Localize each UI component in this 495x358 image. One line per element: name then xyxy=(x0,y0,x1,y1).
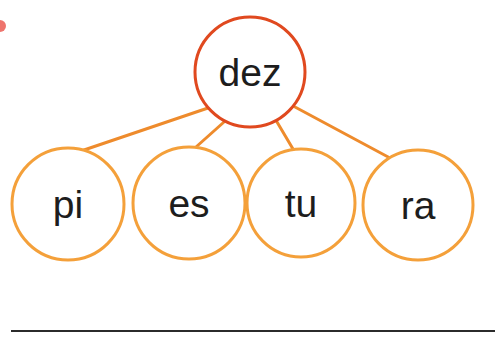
leaf-label-pi: pi xyxy=(53,183,83,226)
leaf-label-tu: tu xyxy=(285,182,318,225)
root-label-dez: dez xyxy=(219,51,282,94)
leaf-node-pi[interactable]: pi xyxy=(12,148,124,260)
edge-dez-pi xyxy=(84,108,208,150)
leaf-node-ra[interactable]: ra xyxy=(363,150,473,260)
edge-dez-tu xyxy=(277,122,293,149)
leaf-node-tu[interactable]: tu xyxy=(247,149,355,257)
root-node-dez[interactable]: dez xyxy=(195,17,305,127)
leaf-node-es[interactable]: es xyxy=(133,147,245,259)
leaf-label-ra: ra xyxy=(401,184,436,227)
leaf-label-es: es xyxy=(168,182,209,225)
edge-dez-es xyxy=(196,122,224,147)
syllable-tree-diagram: pi es tu ra dez xyxy=(0,0,495,358)
corner-mark-icon xyxy=(0,20,6,32)
worksheet-canvas: pi es tu ra dez xyxy=(0,0,495,358)
